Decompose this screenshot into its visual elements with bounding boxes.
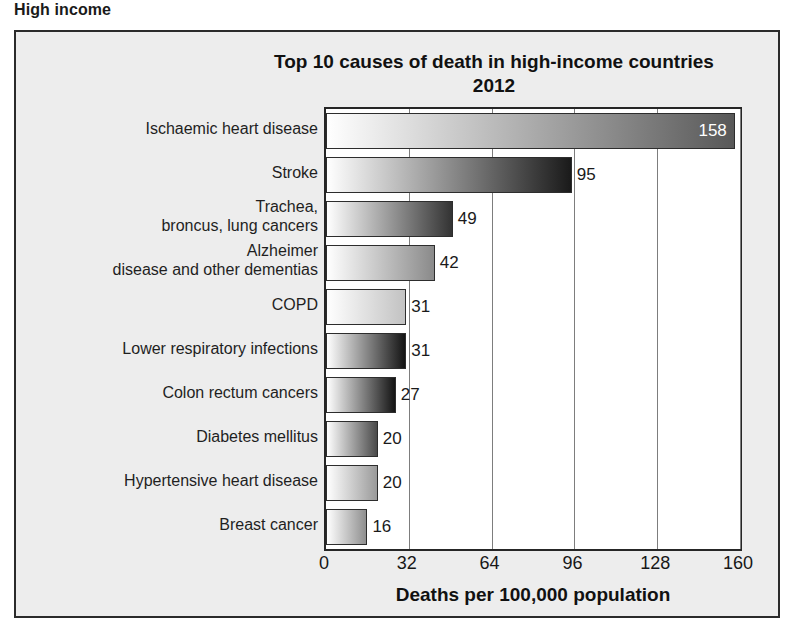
bar-value-label: 95 [577, 165, 596, 185]
bar-value-label: 16 [372, 517, 391, 537]
bar-row: 95 [326, 157, 740, 192]
category-label: Colon rectum cancers [28, 384, 318, 403]
bar[interactable] [326, 157, 572, 192]
bar[interactable] [326, 465, 378, 500]
bar[interactable] [326, 421, 378, 456]
category-label: Diabetes mellitus [28, 428, 318, 447]
chart-title-line2: 2012 [216, 74, 772, 98]
bar-row: 16 [326, 509, 740, 544]
category-label: Hypertensive heart disease [28, 472, 318, 491]
chart-title-line1: Top 10 causes of death in high-income co… [274, 51, 714, 72]
category-label: Breast cancer [28, 516, 318, 535]
x-tick-label: 160 [723, 553, 753, 574]
x-tick-label: 96 [562, 553, 582, 574]
category-axis-labels: Ischaemic heart diseaseStrokeTrachea, br… [24, 107, 318, 551]
bar[interactable] [326, 333, 406, 368]
bar-row: 31 [326, 333, 740, 368]
bar-value-label: 31 [411, 297, 430, 317]
bar[interactable] [326, 289, 406, 324]
bar[interactable] [326, 377, 396, 412]
bar-row: 27 [326, 377, 740, 412]
bar-row: 20 [326, 421, 740, 456]
figure-panel: Top 10 causes of death in high-income co… [14, 30, 780, 618]
page-heading: High income [14, 1, 111, 19]
x-tick-label: 32 [397, 553, 417, 574]
bar-value-label: 27 [401, 385, 420, 405]
bar-row: 49 [326, 201, 740, 236]
x-tick-label: 0 [319, 553, 329, 574]
x-tick-label: 64 [480, 553, 500, 574]
bar-row: 42 [326, 245, 740, 280]
bar-row: 20 [326, 465, 740, 500]
bar[interactable] [326, 509, 367, 544]
chart-title: Top 10 causes of death in high-income co… [16, 50, 778, 99]
gridline [740, 109, 741, 549]
x-tick-label: 128 [640, 553, 670, 574]
bar-value-label: 31 [411, 341, 430, 361]
category-label: Ischaemic heart disease [28, 120, 318, 139]
x-axis-tick-labels: 0326496128160 [324, 553, 742, 579]
bar-row: 158 [326, 113, 740, 148]
plot-area: 158954942313127202016 [324, 107, 742, 551]
category-label: Lower respiratory infections [28, 340, 318, 359]
bar-value-label: 20 [383, 429, 402, 449]
bar[interactable] [326, 113, 735, 148]
bar-value-label: 49 [458, 209, 477, 229]
bar[interactable] [326, 245, 435, 280]
category-label: Stroke [28, 164, 318, 183]
bar-value-label: 42 [440, 253, 459, 273]
bar-value-label: 158 [698, 121, 726, 141]
x-axis-title: Deaths per 100,000 population [324, 584, 742, 606]
category-label: COPD [28, 296, 318, 315]
category-label: Trachea, broncus, lung cancers [28, 198, 318, 236]
bar-row: 31 [326, 289, 740, 324]
category-label: Alzheimer disease and other dementias [28, 242, 318, 280]
bar[interactable] [326, 201, 453, 236]
bar-value-label: 20 [383, 473, 402, 493]
